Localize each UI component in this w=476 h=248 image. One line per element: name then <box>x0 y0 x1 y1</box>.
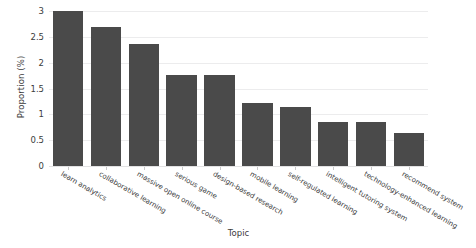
x-axis-tick-label: self-regulated learning <box>287 171 359 217</box>
x-axis-tick <box>144 167 145 170</box>
x-axis-tick <box>371 167 372 170</box>
bars-layer <box>49 11 428 166</box>
y-axis-tick-label: 0.5 <box>30 136 44 145</box>
x-axis-tick <box>220 167 221 170</box>
bar[interactable] <box>204 75 234 166</box>
bar[interactable] <box>91 27 121 167</box>
y-axis-tick-label: 3 <box>39 7 44 16</box>
y-axis-tick-label: 1 <box>39 110 44 119</box>
bar[interactable] <box>129 44 159 166</box>
x-axis-title: Topic <box>49 226 428 240</box>
bar[interactable] <box>53 11 83 166</box>
bar[interactable] <box>242 103 272 166</box>
bar[interactable] <box>166 75 196 166</box>
x-axis-tick <box>106 167 107 170</box>
x-axis-tick-label: collaborative learning <box>97 171 166 215</box>
x-axis-tick <box>333 167 334 170</box>
bar[interactable] <box>280 107 310 166</box>
x-axis-tick-label: recommend system <box>401 171 465 212</box>
plot-area: 00.511.522.53 <box>49 11 428 166</box>
bar[interactable] <box>394 133 424 166</box>
x-axis-tick-labels: learn analyticscollaborative learningmas… <box>49 167 428 225</box>
x-axis-tick <box>68 167 69 170</box>
bar[interactable] <box>356 122 386 166</box>
bar-chart: Proportion (%) 00.511.522.53 learn analy… <box>0 0 476 248</box>
x-axis-tick <box>409 167 410 170</box>
bar[interactable] <box>318 122 348 166</box>
x-axis-tick <box>257 167 258 170</box>
x-axis-tick-label: design-based research <box>211 171 283 217</box>
y-axis-tick-label: 1.5 <box>30 84 44 93</box>
y-axis-tick-label: 0 <box>39 162 44 171</box>
y-axis-tick-label: 2 <box>39 58 44 67</box>
x-axis-tick <box>182 167 183 170</box>
x-axis-tick <box>295 167 296 170</box>
y-axis-title: Proportion (%) <box>14 4 28 170</box>
y-axis-tick-label: 2.5 <box>30 33 44 42</box>
